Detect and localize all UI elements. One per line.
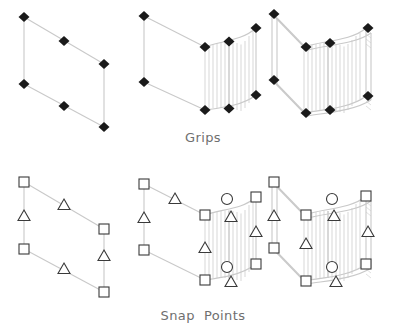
solid-curved-wall-snap-points: [258, 168, 406, 308]
grip-diamond-marker[interactable]: [363, 23, 374, 33]
grip-diamond-marker[interactable]: [269, 9, 280, 19]
endpoint-snap-marker[interactable]: [361, 191, 371, 201]
endpoint-snap-marker[interactable]: [301, 276, 311, 286]
caption-snap-points: Snap Points: [0, 308, 406, 323]
endpoint-snap-marker[interactable]: [139, 179, 149, 189]
midpoint-snap-marker[interactable]: [362, 226, 374, 237]
grip-diamond-marker[interactable]: [19, 12, 30, 22]
arc-top-inner: [308, 201, 371, 218]
endpoint-snap-marker[interactable]: [269, 243, 279, 253]
endpoint-snap-marker[interactable]: [200, 210, 210, 220]
diagram-stage: Grips: [0, 0, 406, 336]
snap-markers: [138, 179, 262, 287]
arc-bottom-inner: [308, 100, 371, 116]
grip-diamond-marker[interactable]: [139, 77, 150, 87]
grip-diamond-marker[interactable]: [19, 79, 30, 89]
midpoint-snap-marker[interactable]: [328, 210, 340, 221]
center-snap-marker[interactable]: [222, 262, 233, 273]
edge-top: [144, 16, 205, 47]
arc-top-outer: [304, 28, 366, 47]
grip-diamond-marker[interactable]: [363, 91, 374, 101]
edge-bottom: [144, 250, 205, 280]
grip-diamond-marker[interactable]: [59, 101, 70, 111]
caption-grips: Grips: [0, 130, 406, 145]
endpoint-snap-marker[interactable]: [99, 224, 109, 234]
snap-markers: [18, 177, 110, 297]
endpoint-snap-marker[interactable]: [99, 287, 109, 297]
curved-wall-snap-points: [130, 168, 265, 303]
edge-bottom-outer: [272, 80, 304, 113]
midpoint-snap-marker[interactable]: [225, 211, 237, 222]
endpoint-snap-marker[interactable]: [139, 245, 149, 255]
grip-markers: [19, 12, 110, 132]
midpoint-snap-marker[interactable]: [58, 199, 70, 210]
center-snap-marker[interactable]: [222, 194, 233, 205]
grip-diamond-marker[interactable]: [139, 11, 150, 21]
arc-top-inner: [308, 33, 371, 50]
grip-diamond-marker[interactable]: [269, 75, 280, 85]
midpoint-snap-marker[interactable]: [138, 212, 150, 223]
midpoint-snap-marker[interactable]: [169, 193, 181, 204]
grip-diamond-marker[interactable]: [99, 59, 110, 69]
center-snap-marker[interactable]: [327, 194, 338, 205]
grip-diamond-marker[interactable]: [59, 36, 70, 46]
midpoint-snap-marker[interactable]: [18, 210, 30, 221]
endpoint-snap-marker[interactable]: [301, 210, 311, 220]
midpoint-snap-marker[interactable]: [268, 210, 280, 221]
edge-bottom: [144, 82, 205, 110]
endpoint-snap-marker[interactable]: [200, 275, 210, 285]
endpoint-snap-marker[interactable]: [19, 177, 29, 187]
midpoint-snap-marker[interactable]: [98, 250, 110, 261]
endpoint-snap-marker[interactable]: [269, 177, 279, 187]
solid-curved-wall-grips: [258, 0, 406, 135]
endpoint-snap-marker[interactable]: [361, 259, 371, 269]
flat-wall-snap-points: [0, 168, 140, 303]
midpoint-snap-marker[interactable]: [225, 276, 237, 287]
center-snap-marker[interactable]: [327, 262, 338, 273]
midpoint-snap-marker[interactable]: [300, 238, 312, 249]
flat-wall-grips: [0, 0, 140, 130]
curved-wall-grips: [130, 0, 265, 130]
grip-markers: [139, 11, 262, 115]
endpoint-snap-marker[interactable]: [19, 244, 29, 254]
